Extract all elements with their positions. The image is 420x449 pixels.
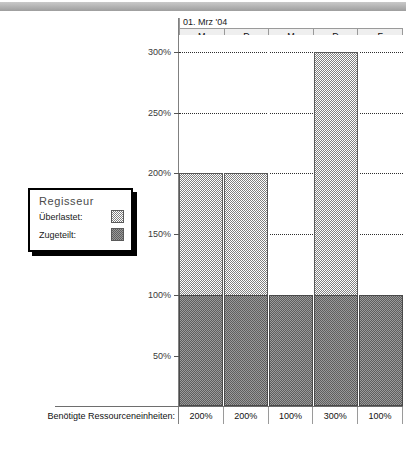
- legend-item-label: Überlastet:: [39, 212, 83, 222]
- bar-segment-zugeteilt[interactable]: [179, 295, 223, 406]
- bar-column[interactable]: [314, 35, 359, 406]
- y-axis-tick: 150%: [148, 229, 179, 239]
- footer-value-cell[interactable]: 100%: [358, 407, 403, 424]
- bar-columns: [179, 35, 403, 406]
- legend[interactable]: Regisseur Überlastet: Zugeteilt:: [28, 188, 133, 252]
- bar-segment-zugeteilt[interactable]: [269, 295, 313, 406]
- bar-segment-ueberlastet[interactable]: [179, 173, 223, 296]
- y-axis-tick-label: 50%: [153, 351, 174, 361]
- footer-values: 200% 200% 100% 300% 100%: [179, 407, 403, 424]
- plot-area: [179, 35, 403, 406]
- timescale-date-band[interactable]: 01. Mrz '04: [179, 18, 403, 29]
- footer-value-cell[interactable]: 100%: [269, 407, 314, 424]
- y-axis-tick: 250%: [148, 108, 179, 118]
- legend-title: Regisseur: [39, 195, 124, 207]
- y-axis-tick: 300%: [148, 47, 179, 57]
- footer-label: Benötigte Ressourceneinheiten:: [55, 407, 179, 424]
- window-titlebar: [0, 2, 406, 11]
- bar-column[interactable]: [179, 35, 224, 406]
- footer-value-cell[interactable]: 200%: [179, 407, 224, 424]
- y-axis-tick-label: 300%: [148, 47, 174, 57]
- legend-item-label: Zugeteilt:: [39, 230, 76, 240]
- footer-row: Benötigte Ressourceneinheiten: 200% 200%…: [55, 406, 403, 424]
- y-axis-tick-label: 150%: [148, 229, 174, 239]
- bar-column[interactable]: [269, 35, 314, 406]
- y-axis-tick-label: 100%: [148, 290, 174, 300]
- bar-segment-zugeteilt[interactable]: [359, 295, 403, 406]
- bar-column[interactable]: [359, 35, 403, 406]
- bar-segment-zugeteilt[interactable]: [224, 295, 268, 406]
- bar-segment-ueberlastet[interactable]: [224, 173, 268, 296]
- y-axis-tick: 200%: [148, 168, 179, 178]
- bar-segment-ueberlastet[interactable]: [314, 52, 358, 296]
- y-axis-tick-label: 250%: [148, 108, 174, 118]
- bar-column[interactable]: [224, 35, 269, 406]
- y-axis-tick: 100%: [148, 290, 179, 300]
- timescale-date-label: 01. Mrz '04: [183, 17, 227, 28]
- legend-swatch-ueberlastet: [111, 210, 124, 223]
- legend-item-ueberlastet[interactable]: Überlastet:: [39, 210, 124, 223]
- y-axis-tick: 50%: [153, 351, 179, 361]
- bar-segment-zugeteilt[interactable]: [314, 295, 358, 406]
- legend-swatch-zugeteilt: [111, 228, 124, 241]
- y-axis-tick-label: 200%: [148, 168, 174, 178]
- footer-value-cell[interactable]: 200%: [224, 407, 269, 424]
- legend-item-zugeteilt[interactable]: Zugeteilt:: [39, 228, 124, 241]
- footer-value-cell[interactable]: 300%: [313, 407, 358, 424]
